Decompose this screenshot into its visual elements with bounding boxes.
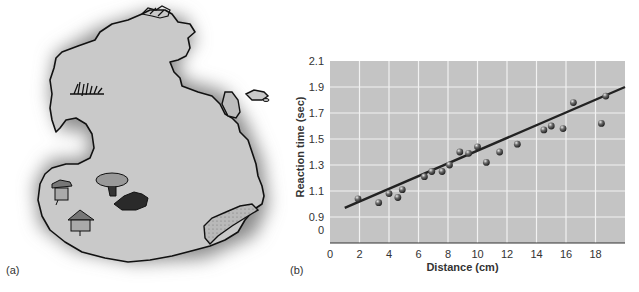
- data-point: [483, 159, 490, 166]
- data-point: [428, 168, 435, 175]
- x-tick-label: 2: [356, 248, 362, 260]
- data-point: [598, 120, 605, 127]
- data-point: [560, 125, 567, 132]
- data-point: [456, 149, 463, 156]
- y-tick-label: 1.1: [309, 185, 324, 197]
- data-point: [355, 195, 362, 202]
- panel-label-b: (b): [290, 264, 303, 276]
- data-point: [399, 186, 406, 193]
- data-point: [386, 190, 393, 197]
- y-tick-label: 1.5: [309, 133, 324, 145]
- data-point: [446, 162, 453, 169]
- data-point: [514, 141, 521, 148]
- x-tick-label: 4: [386, 248, 392, 260]
- data-point: [540, 126, 547, 133]
- x-tick-label: 18: [589, 248, 601, 260]
- y-tick-label: 1.7: [309, 107, 324, 119]
- y-tick-label: 1.3: [309, 159, 324, 171]
- x-tick-label: 6: [415, 248, 421, 260]
- y-tick-label: 2.1: [309, 55, 324, 67]
- y-axis-title: Reaction time (sec): [294, 96, 306, 197]
- x-tick-label: 12: [501, 248, 513, 260]
- data-point: [465, 150, 472, 157]
- plot-area: 02468101214161800.91.11.31.51.71.92.1Dis…: [294, 55, 625, 273]
- x-tick-label: 14: [530, 248, 542, 260]
- y-tick-label: 0: [318, 224, 324, 236]
- y-tick-label: 1.9: [309, 81, 324, 93]
- data-point: [421, 173, 428, 180]
- data-point: [439, 168, 446, 175]
- data-point: [548, 123, 555, 130]
- reaction-time-chart: 02468101214161800.91.11.31.51.71.92.1Dis…: [0, 0, 639, 292]
- data-point: [375, 199, 382, 206]
- x-axis-title: Distance (cm): [426, 261, 498, 273]
- x-tick-label: 10: [471, 248, 483, 260]
- data-point: [602, 93, 609, 100]
- x-tick-label: 8: [445, 248, 451, 260]
- data-point: [496, 149, 503, 156]
- x-tick-label: 16: [560, 248, 572, 260]
- x-tick-label: 0: [327, 248, 333, 260]
- data-point: [394, 194, 401, 201]
- data-point: [474, 143, 481, 150]
- data-point: [570, 99, 577, 106]
- y-tick-label: 0.9: [309, 211, 324, 223]
